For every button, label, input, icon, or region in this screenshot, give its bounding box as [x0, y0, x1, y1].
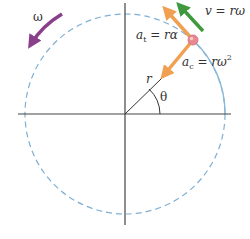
angle-label: θ — [160, 91, 167, 103]
radius-label: r — [146, 73, 152, 85]
tangential-accel-formula: = rα — [146, 28, 178, 42]
particle-highlight — [190, 37, 194, 41]
radius-line — [125, 78, 162, 114]
circular-motion-diagram — [0, 0, 250, 239]
particle — [188, 35, 198, 45]
velocity-label: v = rω — [205, 5, 245, 17]
centripetal-accel-label: ac = rω2 — [182, 54, 232, 71]
centripetal-accel-superscript: 2 — [227, 53, 232, 62]
velocity-symbol: v — [205, 4, 212, 18]
tangential-accel-label: at = rα — [136, 29, 178, 44]
angle-arc — [149, 89, 160, 114]
velocity-formula: = rω — [212, 4, 245, 18]
omega-label: ω — [33, 11, 43, 23]
swept-arc — [193, 40, 225, 114]
centripetal-accel-formula: = rω — [194, 55, 227, 69]
omega-symbol: ω — [33, 10, 43, 24]
